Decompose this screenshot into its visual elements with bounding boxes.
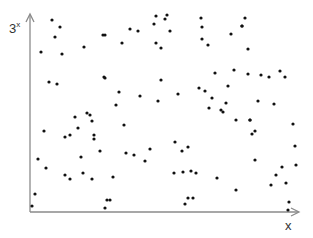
data-point — [274, 173, 277, 176]
data-point — [68, 177, 71, 180]
data-point — [159, 78, 162, 81]
data-point — [186, 196, 189, 199]
data-point — [42, 129, 45, 132]
data-point — [50, 18, 53, 21]
data-point — [278, 69, 281, 72]
data-point — [234, 118, 237, 121]
data-point — [148, 147, 151, 150]
data-point — [200, 37, 203, 40]
data-point — [250, 132, 253, 135]
data-point — [103, 76, 106, 79]
data-point — [283, 75, 286, 78]
data-point — [186, 145, 189, 148]
data-point — [168, 29, 171, 32]
data-point — [269, 183, 272, 186]
data-point — [210, 96, 213, 99]
data-point — [219, 108, 222, 111]
data-point — [280, 165, 283, 168]
data-points — [30, 13, 297, 211]
data-point — [287, 200, 290, 203]
data-point — [114, 103, 117, 106]
data-point — [253, 129, 256, 132]
data-point — [180, 149, 183, 152]
data-point — [229, 32, 232, 35]
data-point — [163, 17, 166, 20]
data-point — [159, 46, 162, 49]
data-point — [172, 171, 175, 174]
data-point — [76, 126, 79, 129]
data-point — [98, 149, 101, 152]
data-point — [53, 35, 56, 38]
data-point — [154, 14, 157, 17]
data-point — [58, 25, 61, 28]
data-point — [256, 99, 259, 102]
data-point — [215, 176, 218, 179]
data-point — [90, 119, 93, 122]
y-axis-label: 3x — [9, 22, 20, 35]
data-point — [294, 163, 297, 166]
data-point — [128, 27, 131, 30]
data-point — [143, 159, 146, 162]
data-point — [138, 94, 141, 97]
data-point — [181, 170, 184, 173]
data-point — [152, 22, 155, 25]
x-axis-label: x — [285, 219, 292, 232]
data-point — [197, 86, 200, 89]
data-point — [92, 137, 95, 140]
data-point — [156, 99, 159, 102]
data-point — [117, 90, 120, 93]
data-point — [194, 171, 197, 174]
data-point — [259, 73, 262, 76]
data-point — [105, 198, 108, 201]
data-point — [136, 29, 139, 32]
data-point — [90, 177, 93, 180]
y-axis-label-exponent: x — [16, 20, 20, 29]
data-point — [226, 84, 229, 87]
data-point — [88, 113, 91, 116]
data-point — [111, 175, 114, 178]
data-point — [55, 82, 58, 85]
data-point — [246, 47, 249, 50]
data-point — [108, 198, 111, 201]
data-point — [36, 157, 39, 160]
data-point — [206, 43, 209, 46]
data-point — [272, 102, 275, 105]
data-point — [85, 111, 88, 114]
data-point — [200, 25, 203, 28]
scatter-plot — [0, 0, 313, 238]
data-point — [291, 122, 294, 125]
data-point — [73, 115, 76, 118]
data-point — [253, 158, 256, 161]
data-point — [63, 135, 66, 138]
data-point — [243, 16, 246, 19]
data-point — [79, 155, 82, 158]
data-point — [234, 188, 237, 191]
data-point — [203, 89, 206, 92]
data-point — [232, 68, 235, 71]
data-point — [267, 75, 270, 78]
data-point — [132, 153, 135, 156]
data-point — [189, 169, 192, 172]
axes — [26, 14, 299, 216]
data-point — [122, 123, 125, 126]
data-point — [224, 101, 227, 104]
data-point — [124, 151, 127, 154]
data-point — [240, 24, 243, 27]
data-point — [68, 133, 71, 136]
data-point — [248, 118, 251, 121]
data-point — [293, 144, 296, 147]
data-point — [213, 71, 216, 74]
data-point — [63, 173, 66, 176]
data-point — [199, 16, 202, 19]
data-point — [47, 80, 50, 83]
data-point — [39, 50, 42, 53]
data-point — [286, 208, 289, 211]
data-point — [92, 133, 95, 136]
data-point — [154, 41, 157, 44]
data-point — [183, 202, 186, 205]
data-point — [30, 204, 33, 207]
data-point — [120, 41, 123, 44]
data-point — [173, 140, 176, 143]
data-point — [176, 92, 179, 95]
data-point — [165, 13, 168, 16]
